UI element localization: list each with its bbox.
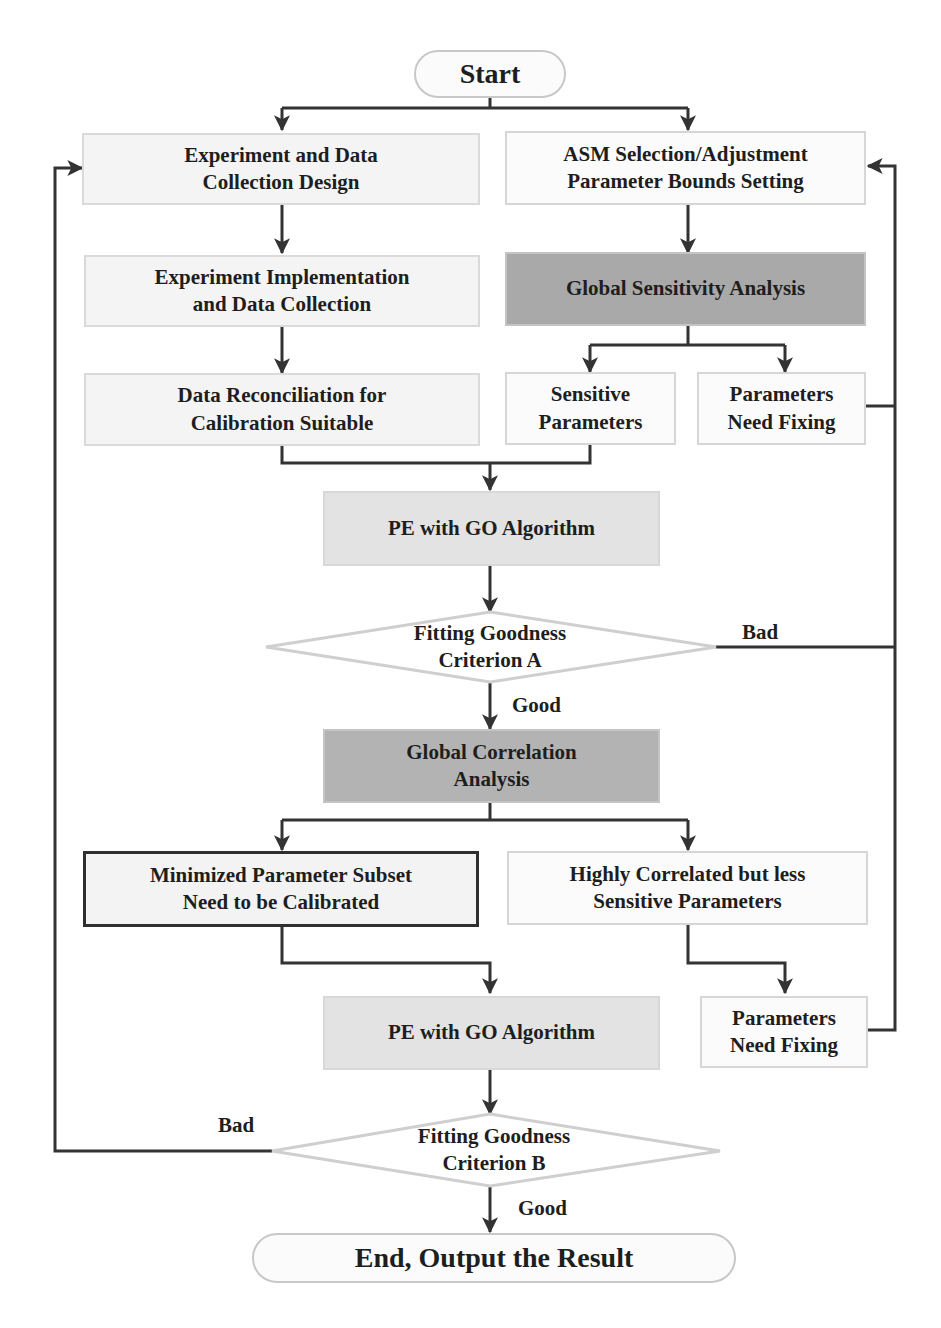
asm-selection-box: ASM Selection/Adjustment Parameter Bound… <box>505 131 866 205</box>
experiment-design-box: Experiment and Data Collection Design <box>82 133 480 205</box>
parameters-need-fixing-2-line1: Parameters <box>732 1005 836 1032</box>
global-correlation-analysis-box: Global Correlation Analysis <box>323 729 660 803</box>
sensitive-parameters-line2: Parameters <box>539 409 643 436</box>
sensitive-parameters-line1: Sensitive <box>551 381 630 408</box>
parameters-need-fixing-1-line1: Parameters <box>730 381 834 408</box>
highly-correlated-line2: Sensitive Parameters <box>593 888 781 915</box>
pe-go-algorithm-box-1: PE with GO Algorithm <box>323 491 660 566</box>
parameters-need-fixing-box-2: Parameters Need Fixing <box>700 996 868 1068</box>
experiment-design-line1: Experiment and Data <box>184 142 378 169</box>
criterion-a-line2: Criterion A <box>340 647 640 674</box>
global-correlation-line2: Analysis <box>454 766 530 793</box>
data-reconciliation-box: Data Reconciliation for Calibration Suit… <box>84 373 480 446</box>
asm-selection-line2: Parameter Bounds Setting <box>567 168 803 195</box>
criterion-b-text: Fitting Goodness Criterion B <box>344 1123 644 1178</box>
criterion-b-line2: Criterion B <box>344 1150 644 1177</box>
experiment-implementation-line1: Experiment Implementation <box>155 264 410 291</box>
global-sensitivity-analysis-label: Global Sensitivity Analysis <box>566 275 805 302</box>
pe-go-algorithm-1-label: PE with GO Algorithm <box>388 515 595 542</box>
start-terminal: Start <box>414 50 566 98</box>
parameters-need-fixing-2-line2: Need Fixing <box>730 1032 838 1059</box>
criterion-a-bad-label: Bad <box>742 620 778 645</box>
pe-go-algorithm-box-2: PE with GO Algorithm <box>323 996 660 1070</box>
criterion-b-bad-label: Bad <box>218 1113 254 1138</box>
criterion-a-good-label: Good <box>512 693 561 718</box>
highly-correlated-parameters-box: Highly Correlated but less Sensitive Par… <box>507 851 868 925</box>
global-correlation-line1: Global Correlation <box>406 739 577 766</box>
parameters-need-fixing-1-line2: Need Fixing <box>728 409 836 436</box>
minimized-parameter-subset-box: Minimized Parameter Subset Need to be Ca… <box>83 851 479 927</box>
experiment-implementation-line2: and Data Collection <box>193 291 372 318</box>
criterion-b-good-label: Good <box>518 1196 567 1221</box>
experiment-design-line2: Collection Design <box>203 169 360 196</box>
end-label: End, Output the Result <box>355 1240 634 1276</box>
end-terminal: End, Output the Result <box>252 1233 736 1283</box>
criterion-b-line1: Fitting Goodness <box>344 1123 644 1150</box>
global-sensitivity-analysis-box: Global Sensitivity Analysis <box>505 252 866 326</box>
data-reconciliation-line2: Calibration Suitable <box>191 410 374 437</box>
minimized-subset-line1: Minimized Parameter Subset <box>150 862 412 889</box>
asm-selection-line1: ASM Selection/Adjustment <box>563 141 807 168</box>
data-reconciliation-line1: Data Reconciliation for <box>178 382 387 409</box>
experiment-implementation-box: Experiment Implementation and Data Colle… <box>84 255 480 327</box>
highly-correlated-line1: Highly Correlated but less <box>570 861 806 888</box>
pe-go-algorithm-2-label: PE with GO Algorithm <box>388 1019 595 1046</box>
sensitive-parameters-box: Sensitive Parameters <box>505 372 676 445</box>
minimized-subset-line2: Need to be Calibrated <box>183 889 380 916</box>
criterion-a-line1: Fitting Goodness <box>340 620 640 647</box>
criterion-a-text: Fitting Goodness Criterion A <box>340 620 640 675</box>
start-label: Start <box>460 56 521 92</box>
parameters-need-fixing-box-1: Parameters Need Fixing <box>697 372 866 445</box>
